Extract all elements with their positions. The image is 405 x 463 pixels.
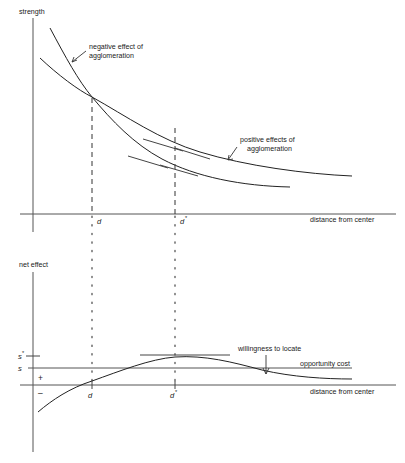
lower-ytick-s-label: s	[18, 364, 22, 373]
curve-positive-effects	[40, 58, 352, 176]
annotation-negative-line2: agglomeration	[89, 52, 134, 60]
annotation-negative-line1: negative effect of	[89, 43, 143, 51]
upper-xtick-d-label: d	[97, 217, 102, 226]
upper-panel: strength distance from center d d *	[19, 8, 396, 232]
annotation-opportunity-cost-label: opportunity cost	[300, 360, 350, 368]
upper-x-axis-label: distance from center	[310, 216, 375, 224]
leader-line-negative	[72, 51, 86, 62]
lower-ytick-s-star: s *	[18, 350, 25, 361]
annotation-positive-line2: agglomeration	[247, 145, 292, 153]
lower-ytick-s: s	[18, 364, 22, 373]
sign-marker-minus: –	[38, 388, 43, 398]
annotation-positive-line1: positive effects of	[240, 136, 295, 144]
tangent-marker-upper	[143, 139, 183, 151]
panel-connectors	[92, 216, 175, 385]
curve-negative-effect	[50, 28, 290, 187]
lower-panel: net effect distance from center s * s + …	[18, 261, 396, 452]
sign-marker-plus: +	[38, 373, 43, 383]
figure-root: strength distance from center d d *	[0, 0, 405, 463]
annotation-positive-effects: positive effects of agglomeration	[228, 136, 295, 160]
tangent-marker-lower	[128, 156, 168, 168]
lower-xtick-d-star: d *	[170, 389, 178, 400]
annotation-negative-effect: negative effect of agglomeration	[72, 43, 143, 62]
annotation-willingness-label: willingness to locate	[237, 345, 301, 353]
upper-xtick-d-star-asterisk: *	[185, 215, 188, 221]
lower-xtick-d-label: d	[88, 391, 93, 400]
upper-xtick-d-star: d *	[180, 215, 188, 226]
lower-xtick-d: d	[88, 391, 93, 400]
annotation-willingness-to-locate: willingness to locate	[237, 345, 301, 374]
lower-ytick-s-star-asterisk: *	[22, 350, 25, 356]
upper-xtick-d: d	[97, 217, 102, 226]
diagram-canvas: strength distance from center d d *	[0, 0, 405, 463]
lower-xtick-d-star-asterisk: *	[175, 389, 178, 395]
upper-y-axis-label: strength	[19, 8, 45, 16]
lower-x-axis-label: distance from center	[310, 388, 375, 396]
lower-y-axis-label: net effect	[19, 261, 48, 269]
leader-line-positive	[228, 147, 237, 160]
